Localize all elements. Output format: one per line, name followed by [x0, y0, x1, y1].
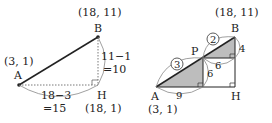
- right-diagram: 3 2 (18, 11) B P A (3, 1) H 9 6 6 4: [148, 6, 259, 116]
- label-a: A: [13, 69, 23, 82]
- ratio-pb: 2: [210, 34, 216, 45]
- label-p: P: [191, 45, 199, 58]
- length-p-base: 6: [215, 60, 221, 71]
- left-diagram: (18, 11) B (3, 1) A 11−1 =10 18−3 =15 H …: [4, 6, 131, 115]
- coord-a: (3, 1): [148, 103, 178, 116]
- coord-h: (18, 1): [85, 102, 122, 115]
- vertical-expr: 11−1: [101, 50, 131, 63]
- horizontal-expr: 18−3: [41, 89, 71, 102]
- coord-b: (18, 11): [78, 6, 122, 19]
- label-h: H: [97, 89, 107, 102]
- coord-b: (18, 11): [215, 6, 259, 19]
- ratio-ap: 3: [174, 59, 180, 70]
- length-b-height: 4: [239, 43, 245, 54]
- coord-a: (3, 1): [4, 55, 34, 68]
- diagram-canvas: (18, 11) B (3, 1) A 11−1 =10 18−3 =15 H …: [0, 0, 272, 123]
- vertical-result: =10: [103, 63, 126, 76]
- length-p-height: 6: [207, 68, 213, 79]
- horizontal-result: =15: [43, 102, 66, 115]
- length-a-base: 9: [176, 90, 182, 101]
- right-angle-mark: [92, 80, 98, 85]
- right-angle-mark: [230, 83, 235, 87]
- label-b: B: [231, 22, 239, 35]
- label-a: A: [150, 90, 160, 103]
- label-h: H: [231, 90, 241, 103]
- label-b: B: [94, 22, 102, 35]
